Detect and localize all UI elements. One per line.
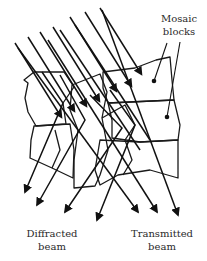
pointer-line bbox=[154, 43, 167, 81]
diffracted-label-line2: beam bbox=[38, 241, 66, 252]
block-edge bbox=[52, 130, 60, 168]
pointer-line bbox=[167, 42, 180, 117]
diffracted-rays bbox=[25, 72, 135, 220]
mosaic-label-line2: blocks bbox=[163, 26, 195, 37]
incident-ray bbox=[100, 8, 140, 72]
mosaic-block-middle bbox=[70, 74, 108, 188]
mosaic-diffraction-diagram: Mosaic blocks Diffracted beam Transmitte… bbox=[0, 0, 207, 261]
mosaic-label-line1: Mosaic bbox=[161, 13, 198, 24]
diffracted-ray bbox=[37, 75, 85, 205]
mosaic-blocks bbox=[24, 57, 180, 188]
transmitted-label-line1: Transmitted bbox=[131, 228, 194, 239]
pointer-dot bbox=[165, 115, 170, 120]
transmitted-label-line2: beam bbox=[148, 241, 176, 252]
transmitted-rays bbox=[18, 10, 178, 215]
diffracted-label-line1: Diffracted bbox=[26, 228, 78, 239]
pointer-dot bbox=[152, 79, 157, 84]
